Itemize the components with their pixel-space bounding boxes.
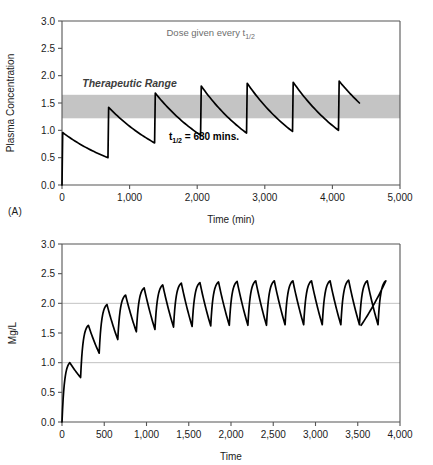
x-tick-label: 3,000 bbox=[252, 192, 277, 203]
therapeutic-range-label: Therapeutic Range bbox=[82, 77, 177, 89]
y-tick-label: 1.0 bbox=[41, 125, 55, 136]
x-tick-label: 2,000 bbox=[218, 429, 243, 440]
x-tick-label: 3,000 bbox=[303, 429, 328, 440]
y-tick-label: 2.0 bbox=[41, 298, 55, 309]
dose-interval-note: Dose given every t1/2 bbox=[167, 27, 256, 40]
half-life-note: t1/2 = 680 mins. bbox=[169, 131, 239, 144]
y-tick-label: 0.0 bbox=[41, 417, 55, 428]
x-tick-label: 5,000 bbox=[387, 192, 412, 203]
x-tick-label: 4,000 bbox=[320, 192, 345, 203]
y-axis-title: Mg/L bbox=[7, 321, 18, 344]
panel-label-a: (A) bbox=[8, 206, 22, 217]
x-axis-title: Time (min) bbox=[207, 214, 254, 225]
y-tick-label: 3.0 bbox=[41, 16, 55, 27]
y-tick-label: 2.5 bbox=[41, 43, 55, 54]
y-tick-label: 1.0 bbox=[41, 357, 55, 368]
y-tick-label: 0.5 bbox=[41, 152, 55, 163]
plasma-concentration-chart: 0.00.51.01.52.02.53.001,0002,0003,0004,0… bbox=[0, 0, 433, 232]
x-tick-label: 3,500 bbox=[345, 429, 370, 440]
figure-panel-b: 0.00.51.01.52.02.53.005001,0001,5002,000… bbox=[0, 232, 433, 465]
x-tick-label: 0 bbox=[59, 429, 65, 440]
y-tick-label: 3.0 bbox=[41, 239, 55, 250]
x-axis-title: Time bbox=[220, 451, 242, 462]
y-tick-label: 0.0 bbox=[41, 180, 55, 191]
y-tick-label: 1.5 bbox=[41, 98, 55, 109]
x-tick-label: 0 bbox=[59, 192, 65, 203]
y-tick-label: 1.5 bbox=[41, 328, 55, 339]
x-tick-label: 1,500 bbox=[176, 429, 201, 440]
figure-panel-a: 0.00.51.01.52.02.53.001,0002,0003,0004,0… bbox=[0, 0, 433, 232]
axis-lines bbox=[62, 244, 400, 422]
x-tick-label: 1,000 bbox=[117, 192, 142, 203]
x-tick-label: 2,000 bbox=[185, 192, 210, 203]
y-tick-label: 0.5 bbox=[41, 387, 55, 398]
x-tick-label: 500 bbox=[96, 429, 113, 440]
mg-per-litre-curve bbox=[62, 280, 386, 422]
y-tick-label: 2.0 bbox=[41, 70, 55, 81]
mg-per-litre-chart: 0.00.51.01.52.02.53.005001,0001,5002,000… bbox=[0, 232, 433, 465]
y-axis-title: Plasma Concentration bbox=[5, 54, 16, 152]
therapeutic-range-band bbox=[62, 95, 400, 119]
y-tick-label: 2.5 bbox=[41, 268, 55, 279]
x-tick-label: 1,000 bbox=[134, 429, 159, 440]
x-tick-label: 4,000 bbox=[387, 429, 412, 440]
x-tick-label: 2,500 bbox=[261, 429, 286, 440]
